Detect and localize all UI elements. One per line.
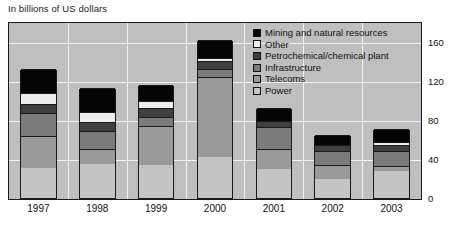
chart-caption: In billions of US dollars xyxy=(8,3,107,14)
bar-segment-telecoms[interactable] xyxy=(21,136,55,167)
legend-item-label: Infrastructure xyxy=(265,63,321,73)
bar-1998[interactable] xyxy=(79,89,115,199)
bar-segment-petrochemical-chemical-plant[interactable] xyxy=(80,122,114,131)
bar-segment-telecoms[interactable] xyxy=(80,149,114,164)
legend-item-petrochemical[interactable]: Petrochemical/chemical plant xyxy=(253,50,389,62)
bar-2002[interactable] xyxy=(314,136,350,199)
bar-segment-other[interactable] xyxy=(139,101,173,108)
x-axis-tick-label: 1999 xyxy=(127,203,186,214)
x-axis-tick-label: 1997 xyxy=(9,203,68,214)
bar-segment-infrastructure[interactable] xyxy=(80,131,114,150)
bar-1997[interactable] xyxy=(20,70,56,199)
bar-segment-petrochemical-chemical-plant[interactable] xyxy=(257,121,291,127)
bar-segment-petrochemical-chemical-plant[interactable] xyxy=(374,145,408,151)
bar-segment-other[interactable] xyxy=(374,142,408,145)
legend-item-label: Telecoms xyxy=(265,74,305,84)
bar-segment-petrochemical-chemical-plant[interactable] xyxy=(315,145,349,151)
bar-segment-other[interactable] xyxy=(21,93,55,104)
bar-segment-other[interactable] xyxy=(80,112,114,122)
bar-segment-telecoms[interactable] xyxy=(139,126,173,165)
x-axis-tick-label: 1998 xyxy=(68,203,127,214)
bar-segment-telecoms[interactable] xyxy=(315,165,349,180)
bar-segment-power[interactable] xyxy=(315,179,349,198)
bar-segment-infrastructure[interactable] xyxy=(374,151,408,166)
legend-swatch-icon xyxy=(253,40,261,48)
legend-swatch-icon xyxy=(253,29,261,37)
stacked-bar-chart-figure: In billions of US dollars Mining and nat… xyxy=(0,0,450,226)
bar-segment-petrochemical-chemical-plant[interactable] xyxy=(198,61,232,69)
bar-2001[interactable] xyxy=(256,109,292,199)
bar-segment-infrastructure[interactable] xyxy=(315,151,349,165)
y-axis-tick-label: 120 xyxy=(428,76,444,87)
x-gridline xyxy=(127,23,128,199)
bar-segment-power[interactable] xyxy=(80,164,114,198)
bar-segment-infrastructure[interactable] xyxy=(198,69,232,77)
bar-segment-mining-and-natural-resources[interactable] xyxy=(80,88,114,112)
legend-item-label: Petrochemical/chemical plant xyxy=(265,51,389,61)
x-gridline xyxy=(68,23,69,199)
bar-segment-infrastructure[interactable] xyxy=(257,127,291,149)
legend-item-label: Mining and natural resources xyxy=(265,28,388,38)
bar-segment-infrastructure[interactable] xyxy=(21,113,55,136)
legend-swatch-icon xyxy=(253,64,261,72)
bar-segment-mining-and-natural-resources[interactable] xyxy=(374,129,408,143)
bar-2000[interactable] xyxy=(197,41,233,199)
bar-segment-other[interactable] xyxy=(198,58,232,61)
bar-segment-petrochemical-chemical-plant[interactable] xyxy=(21,104,55,113)
y-axis-tick-label: 0 xyxy=(428,193,433,204)
legend-item-infrastructure[interactable]: Infrastructure xyxy=(253,62,389,74)
legend-swatch-icon xyxy=(253,52,261,60)
y-axis-tick-label: 160 xyxy=(428,37,444,48)
legend-item-label: Other xyxy=(265,40,289,50)
y-axis-tick-label: 80 xyxy=(428,115,439,126)
bar-segment-power[interactable] xyxy=(198,157,232,198)
bar-2003[interactable] xyxy=(373,130,409,199)
bar-segment-petrochemical-chemical-plant[interactable] xyxy=(139,108,173,117)
legend-item-other[interactable]: Other xyxy=(253,39,389,51)
x-gridline xyxy=(244,23,245,199)
bar-segment-power[interactable] xyxy=(21,168,55,198)
x-axis-tick-label: 2000 xyxy=(186,203,245,214)
x-axis-tick-label: 2002 xyxy=(303,203,362,214)
bar-segment-mining-and-natural-resources[interactable] xyxy=(257,108,291,121)
bar-segment-power[interactable] xyxy=(139,165,173,198)
x-axis-tick-label: 2003 xyxy=(362,203,421,214)
chart-legend: Mining and natural resourcesOtherPetroch… xyxy=(253,27,389,97)
bar-segment-mining-and-natural-resources[interactable] xyxy=(198,40,232,59)
legend-item-label: Power xyxy=(265,86,292,96)
legend-item-power[interactable]: Power xyxy=(253,85,389,97)
bar-segment-telecoms[interactable] xyxy=(374,166,408,171)
x-axis-tick-label: 2001 xyxy=(244,203,303,214)
x-gridline xyxy=(186,23,187,199)
bar-1999[interactable] xyxy=(138,86,174,199)
legend-item-telecoms[interactable]: Telecoms xyxy=(253,73,389,85)
bar-segment-mining-and-natural-resources[interactable] xyxy=(139,85,173,102)
bar-segment-telecoms[interactable] xyxy=(198,77,232,157)
bar-segment-infrastructure[interactable] xyxy=(139,117,173,126)
bar-segment-mining-and-natural-resources[interactable] xyxy=(315,135,349,145)
legend-item-mining[interactable]: Mining and natural resources xyxy=(253,27,389,39)
legend-swatch-icon xyxy=(253,75,261,83)
legend-swatch-icon xyxy=(253,87,261,95)
bar-segment-power[interactable] xyxy=(257,169,291,198)
bar-segment-power[interactable] xyxy=(374,171,408,198)
bar-segment-mining-and-natural-resources[interactable] xyxy=(21,69,55,93)
y-axis-tick-label: 40 xyxy=(428,154,439,165)
bar-segment-telecoms[interactable] xyxy=(257,149,291,169)
